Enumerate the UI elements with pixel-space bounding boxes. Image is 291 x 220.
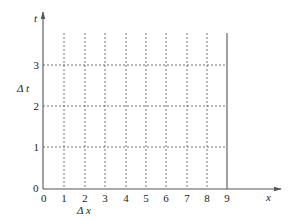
t-tick-1: 1 <box>34 141 40 153</box>
t-axis-label: t <box>34 12 38 24</box>
x-tick-labels: 1 2 3 4 5 6 7 8 9 <box>61 192 230 204</box>
x-tick-6: 6 <box>163 192 169 204</box>
x-axis-label: x <box>265 191 271 203</box>
x-tick-5: 5 <box>143 192 149 204</box>
x-tick-8: 8 <box>204 192 210 204</box>
delta-t-label: Δ t <box>16 82 30 94</box>
t-tick-3: 3 <box>34 59 40 71</box>
origin-label-t: 0 <box>33 182 39 194</box>
x-tick-1: 1 <box>61 192 67 204</box>
origin-label-x: 0 <box>41 192 47 204</box>
spacetime-grid-diagram: t x 0 0 1 2 3 4 5 6 7 8 9 1 2 3 Δ t Δ x <box>0 0 291 220</box>
x-tick-9: 9 <box>224 192 230 204</box>
x-tick-2: 2 <box>82 192 88 204</box>
t-tick-2: 2 <box>34 100 40 112</box>
delta-x-label: Δ x <box>76 204 91 216</box>
vertical-grid-lines <box>64 33 207 189</box>
t-tick-labels: 1 2 3 <box>34 59 40 153</box>
x-tick-7: 7 <box>184 192 190 204</box>
x-tick-3: 3 <box>102 192 108 204</box>
x-tick-4: 4 <box>123 192 129 204</box>
horizontal-grid-lines <box>43 65 227 147</box>
